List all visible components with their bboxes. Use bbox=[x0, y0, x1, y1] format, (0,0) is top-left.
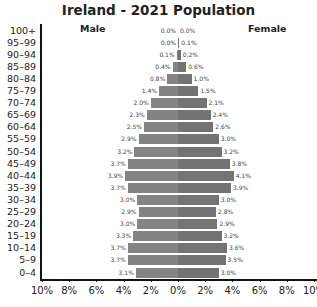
male-value-label: 2.5% bbox=[127, 122, 142, 132]
female-label: Female bbox=[248, 23, 287, 34]
x-tick-label: 0% bbox=[170, 285, 186, 296]
male-bar bbox=[151, 98, 178, 108]
female-bar bbox=[178, 255, 226, 265]
female-value-label: 3.9% bbox=[233, 183, 248, 193]
male-bar bbox=[159, 86, 178, 96]
x-tick bbox=[96, 279, 97, 282]
x-tick bbox=[42, 279, 43, 282]
x-tick bbox=[260, 279, 261, 282]
x-tick-label: 2% bbox=[143, 285, 159, 296]
female-value-label: 2.8% bbox=[218, 207, 233, 217]
x-tick-label: 10% bbox=[31, 285, 53, 296]
male-value-label: 3.0% bbox=[120, 195, 135, 205]
female-bar bbox=[178, 195, 219, 205]
male-label: Male bbox=[80, 23, 106, 34]
x-tick bbox=[314, 279, 315, 282]
female-bar bbox=[178, 62, 186, 72]
female-value-label: 3.8% bbox=[232, 159, 247, 169]
y-tick-label: 50–54 bbox=[0, 146, 36, 157]
y-tick-label: 60–64 bbox=[0, 121, 36, 132]
y-tick-label: 10–14 bbox=[0, 242, 36, 253]
x-tick bbox=[205, 279, 206, 282]
female-value-label: 0.1% bbox=[181, 38, 196, 48]
male-bar bbox=[137, 195, 178, 205]
x-tick-label: 6% bbox=[252, 285, 268, 296]
male-value-label: 3.7% bbox=[110, 255, 125, 265]
x-tick bbox=[287, 279, 288, 282]
x-tick bbox=[124, 279, 125, 282]
male-value-label: 3.7% bbox=[110, 159, 125, 169]
male-value-label: 2.3% bbox=[129, 110, 144, 120]
male-value-label: 3.7% bbox=[110, 183, 125, 193]
x-tick-label: 2% bbox=[197, 285, 213, 296]
x-tick-label: 4% bbox=[116, 285, 132, 296]
y-tick-label: 75–79 bbox=[0, 85, 36, 96]
male-bar bbox=[144, 122, 178, 132]
male-bar bbox=[139, 207, 178, 217]
male-bar bbox=[136, 268, 178, 278]
y-tick-label: 65–69 bbox=[0, 109, 36, 120]
female-value-label: 3.0% bbox=[221, 195, 236, 205]
y-tick-label: 15–19 bbox=[0, 230, 36, 241]
female-bar bbox=[178, 231, 222, 241]
male-bar bbox=[128, 243, 178, 253]
female-bar bbox=[178, 134, 219, 144]
female-bar bbox=[178, 147, 222, 157]
chart-title: Ireland - 2021 Population bbox=[0, 2, 317, 18]
y-tick-label: 80–84 bbox=[0, 73, 36, 84]
female-bar bbox=[178, 219, 217, 229]
female-bar bbox=[178, 38, 179, 48]
male-bar bbox=[167, 74, 178, 84]
male-value-label: 3.3% bbox=[116, 231, 131, 241]
y-tick-label: 5–9 bbox=[0, 254, 36, 265]
male-value-label: 0.0% bbox=[161, 38, 176, 48]
female-value-label: 2.6% bbox=[215, 122, 230, 132]
female-value-label: 3.5% bbox=[228, 255, 243, 265]
female-bar bbox=[178, 122, 213, 132]
male-value-label: 3.7% bbox=[110, 243, 125, 253]
y-axis-line bbox=[40, 24, 42, 280]
female-bar bbox=[178, 243, 227, 253]
female-value-label: 1.0% bbox=[194, 74, 209, 84]
male-bar bbox=[128, 183, 178, 193]
female-value-label: 1.5% bbox=[200, 86, 215, 96]
male-value-label: 2.9% bbox=[121, 134, 136, 144]
y-tick-label: 35–39 bbox=[0, 182, 36, 193]
y-tick-label: 40–44 bbox=[0, 170, 36, 181]
male-value-label: 3.9% bbox=[108, 171, 123, 181]
male-bar bbox=[137, 219, 178, 229]
female-bar bbox=[178, 110, 211, 120]
x-tick-label: 8% bbox=[279, 285, 295, 296]
male-value-label: 2.9% bbox=[121, 207, 136, 217]
male-value-label: 0.1% bbox=[159, 50, 174, 60]
y-tick-label: 20–24 bbox=[0, 218, 36, 229]
y-tick-label: 85–89 bbox=[0, 61, 36, 72]
male-bar bbox=[133, 231, 178, 241]
male-value-label: 1.4% bbox=[142, 86, 157, 96]
male-value-label: 0.0% bbox=[161, 26, 176, 36]
female-bar bbox=[178, 159, 230, 169]
x-tick-label: 4% bbox=[224, 285, 240, 296]
female-bar bbox=[178, 74, 192, 84]
female-bar bbox=[178, 183, 231, 193]
y-tick-label: 30–34 bbox=[0, 194, 36, 205]
female-value-label: 3.0% bbox=[221, 134, 236, 144]
female-value-label: 4.1% bbox=[236, 171, 251, 181]
male-value-label: 2.0% bbox=[134, 98, 149, 108]
male-value-label: 0.8% bbox=[150, 74, 165, 84]
female-bar bbox=[178, 86, 198, 96]
y-tick-label: 95–99 bbox=[0, 37, 36, 48]
y-tick-label: 55–59 bbox=[0, 133, 36, 144]
male-bar bbox=[139, 134, 178, 144]
male-bar bbox=[128, 159, 178, 169]
x-tick-label: 10% bbox=[303, 285, 317, 296]
female-value-label: 2.4% bbox=[213, 110, 228, 120]
female-value-label: 3.2% bbox=[224, 147, 239, 157]
male-bar bbox=[125, 171, 178, 181]
female-value-label: 0.2% bbox=[183, 50, 198, 60]
y-tick-label: 90–94 bbox=[0, 49, 36, 60]
x-tick bbox=[232, 279, 233, 282]
x-tick-label: 8% bbox=[61, 285, 77, 296]
male-value-label: 3.1% bbox=[119, 268, 134, 278]
y-tick-label: 25–29 bbox=[0, 206, 36, 217]
